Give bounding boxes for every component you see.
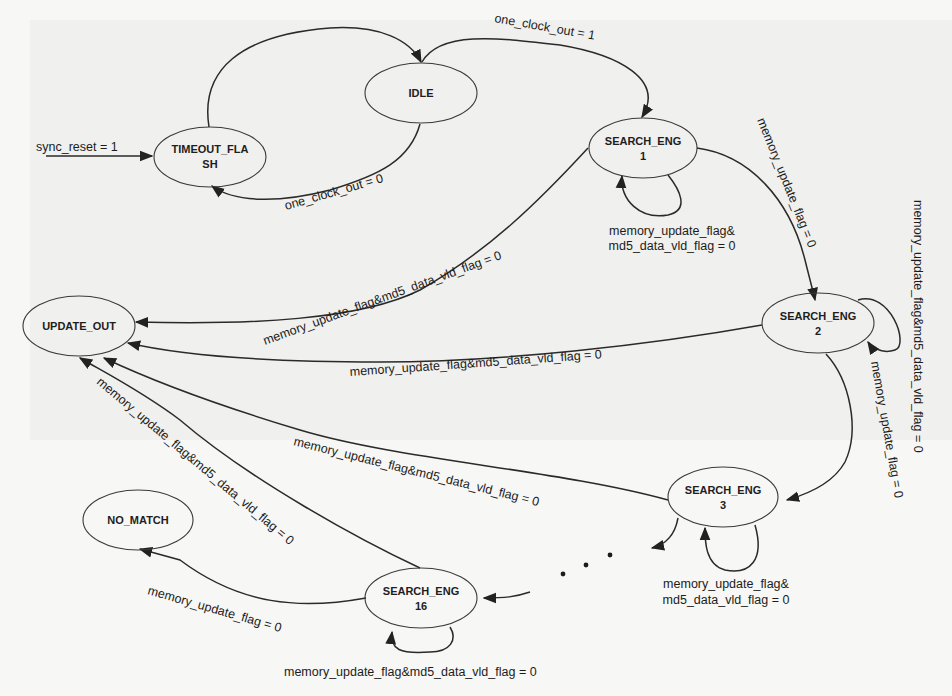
edge-se1-self: memory_update_flag& md5_data_vld_flag = …: [609, 175, 736, 253]
label-se1-self-2: md5_data_vld_flag = 0: [609, 239, 736, 253]
label-se3-self-2: md5_data_vld_flag = 0: [663, 593, 790, 607]
ellipsis-dots: [561, 553, 613, 577]
state-search-eng-1-label-1: SEARCH_ENG: [605, 135, 681, 147]
state-no-match-label: NO_MATCH: [107, 514, 169, 526]
state-timeout-flash-label-1: TIMEOUT_FLA: [172, 143, 249, 155]
edge-sync-reset: sync_reset = 1: [36, 140, 152, 156]
state-search-eng-3-label-1: SEARCH_ENG: [685, 484, 761, 496]
edge-se3-to-ellipsis: [652, 518, 678, 548]
edge-se16-to-nomatch: memory_update_flag = 0: [140, 549, 366, 635]
edge-se1-to-se2: memory_update_flag = 0: [697, 116, 819, 300]
edge-idle-to-timeout: one_clock_out = 0: [212, 124, 420, 213]
state-search-eng-2-label-1: SEARCH_ENG: [780, 310, 856, 322]
state-idle[interactable]: IDLE: [365, 63, 477, 123]
state-diagram: sync_reset = 1 one_clock_out = 0 one_clo…: [0, 0, 952, 696]
label-se2-to-update: memory_update_flag&md5_data_vld_flag = 0: [349, 347, 602, 379]
state-update-out[interactable]: UPDATE_OUT: [23, 296, 135, 356]
edge-se3-self: memory_update_flag& md5_data_vld_flag = …: [663, 525, 790, 607]
label-se2-to-se3: memory_update_flag = 0: [868, 360, 906, 499]
label-se3-to-update: memory_update_flag&md5_data_vld_flag = 0: [292, 434, 541, 509]
edge-se3-to-update: memory_update_flag&md5_data_vld_flag = 0: [104, 358, 668, 509]
state-search-eng-1-label-2: 1: [640, 150, 646, 162]
label-se1-to-update: memory_update_flag&md5_data_vld_flag = 0: [261, 248, 503, 348]
label-se1-self-1: memory_update_flag&: [609, 224, 735, 238]
state-search-eng-3-label-2: 3: [720, 499, 726, 511]
state-search-eng-1[interactable]: SEARCH_ENG 1: [589, 118, 697, 178]
state-update-out-label: UPDATE_OUT: [42, 320, 116, 332]
label-se16-self: memory_update_flag&md5_data_vld_flag = 0: [284, 665, 537, 679]
label-se16-to-nomatch: memory_update_flag = 0: [146, 583, 283, 635]
label-sync-reset: sync_reset = 1: [36, 140, 118, 154]
edge-idle-to-se1: one_clock_out = 1: [422, 11, 648, 117]
state-search-eng-16[interactable]: SEARCH_ENG 16: [365, 568, 477, 628]
state-search-eng-2-label-2: 2: [815, 325, 821, 337]
edge-ellipsis-to-se16: [484, 592, 530, 598]
edge-se2-to-se3: memory_update_flag = 0: [787, 354, 906, 500]
edge-timeout-to-idle: [208, 28, 421, 127]
state-timeout-flash[interactable]: TIMEOUT_FLA SH: [154, 127, 266, 187]
label-one-clock-out-0: one_clock_out = 0: [283, 171, 385, 213]
label-one-clock-out-1: one_clock_out = 1: [493, 11, 596, 42]
state-search-eng-16-label-1: SEARCH_ENG: [383, 585, 459, 597]
state-no-match[interactable]: NO_MATCH: [83, 490, 193, 550]
state-timeout-flash-label-2: SH: [202, 158, 217, 170]
state-search-eng-3[interactable]: SEARCH_ENG 3: [668, 467, 778, 527]
edge-se2-to-update: memory_update_flag&md5_data_vld_flag = 0: [128, 325, 762, 379]
state-search-eng-2[interactable]: SEARCH_ENG 2: [762, 293, 874, 353]
label-se2-self: memory_update_flag&md5_data_vld_flag = 0: [911, 200, 925, 453]
label-se3-self-1: memory_update_flag&: [663, 577, 789, 591]
edge-se16-self: memory_update_flag&md5_data_vld_flag = 0: [284, 627, 537, 679]
state-diagram-canvas: sync_reset = 1 one_clock_out = 0 one_clo…: [0, 0, 952, 696]
state-idle-label: IDLE: [408, 87, 433, 99]
state-search-eng-16-label-2: 16: [415, 600, 427, 612]
